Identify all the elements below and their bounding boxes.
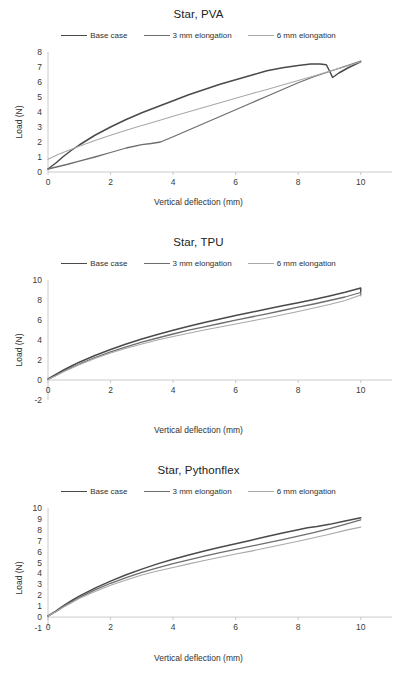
plot-area-star-pythonflex: Load (N) -10123456789100246810 <box>0 500 397 655</box>
legend-swatch-base-case <box>61 491 87 492</box>
legend-item-base-case: Base case <box>61 259 127 268</box>
series-line <box>48 293 361 380</box>
x-tick-label: 10 <box>356 385 366 395</box>
legend-label-3mm: 3 mm elongation <box>173 259 232 268</box>
y-tick-label: 5 <box>37 558 42 568</box>
chart-legend-star-pythonflex: Base case 3 mm elongation 6 mm elongatio… <box>0 482 397 500</box>
chart-legend-star-tpu: Base case 3 mm elongation 6 mm elongatio… <box>0 254 397 272</box>
x-tick-label: 8 <box>296 622 301 632</box>
legend-label-base-case: Base case <box>90 259 127 268</box>
plot-area-star-pva: Load (N) 0123456780246810 <box>0 44 397 199</box>
chart-title-star-tpu: Star, TPU <box>0 228 397 250</box>
y-tick-label: 1 <box>37 152 42 162</box>
plot-svg-star-pva: 0123456780246810 <box>0 44 397 199</box>
legend-swatch-6mm <box>248 263 274 264</box>
x-tick-label: 10 <box>356 177 366 187</box>
y-tick-label: 8 <box>37 295 42 305</box>
chart-panel-star-pva: Star, PVA Base case 3 mm elongation 6 mm… <box>0 0 397 228</box>
y-tick-label: 7 <box>37 62 42 72</box>
y-tick-label: 2 <box>37 137 42 147</box>
legend-swatch-base-case <box>61 263 87 264</box>
y-tick-label: 0 <box>37 167 42 177</box>
legend-swatch-6mm <box>248 491 274 492</box>
y-tick-label: 6 <box>37 315 42 325</box>
y-axis-label-star-pythonflex: Load (N) <box>14 561 24 594</box>
x-tick-label: 0 <box>46 622 51 632</box>
chart-title-star-pythonflex: Star, Pythonflex <box>0 456 397 478</box>
legend-swatch-3mm <box>144 35 170 36</box>
x-tick-label: 8 <box>296 385 301 395</box>
y-tick-label: 0 <box>37 612 42 622</box>
y-axis-label-star-pva: Load (N) <box>14 105 24 138</box>
chart-panel-star-tpu: Star, TPU Base case 3 mm elongation 6 mm… <box>0 228 397 456</box>
y-tick-label: 10 <box>33 503 43 513</box>
chart-legend-star-pva: Base case 3 mm elongation 6 mm elongatio… <box>0 26 397 44</box>
series-line <box>48 527 361 616</box>
y-tick-label: 3 <box>37 579 42 589</box>
x-tick-label: 2 <box>108 385 113 395</box>
y-tick-label: 0 <box>37 375 42 385</box>
x-tick-label: 0 <box>46 385 51 395</box>
legend-label-base-case: Base case <box>90 487 127 496</box>
y-tick-label: -2 <box>34 395 42 405</box>
x-tick-label: 4 <box>171 385 176 395</box>
legend-label-6mm: 6 mm elongation <box>277 487 336 496</box>
y-tick-label: 4 <box>37 107 42 117</box>
legend-label-base-case: Base case <box>90 31 127 40</box>
x-tick-label: 4 <box>171 622 176 632</box>
legend-label-6mm: 6 mm elongation <box>277 31 336 40</box>
y-tick-label: 4 <box>37 335 42 345</box>
y-tick-label: 3 <box>37 122 42 132</box>
plot-area-star-tpu: Load (N) -202468100246810 <box>0 272 397 427</box>
y-tick-label: -1 <box>34 623 42 633</box>
plot-svg-star-tpu: -202468100246810 <box>0 272 397 427</box>
x-tick-label: 6 <box>233 385 238 395</box>
y-tick-label: 6 <box>37 547 42 557</box>
y-axis-label-star-tpu: Load (N) <box>14 333 24 366</box>
legend-item-3mm: 3 mm elongation <box>144 31 232 40</box>
plot-svg-star-pythonflex: -10123456789100246810 <box>0 500 397 655</box>
x-tick-label: 0 <box>46 177 51 187</box>
y-tick-label: 2 <box>37 355 42 365</box>
legend-item-3mm: 3 mm elongation <box>144 487 232 496</box>
legend-label-3mm: 3 mm elongation <box>173 31 232 40</box>
series-line <box>48 61 361 169</box>
series-line <box>48 62 361 160</box>
legend-item-base-case: Base case <box>61 487 127 496</box>
legend-item-3mm: 3 mm elongation <box>144 259 232 268</box>
x-tick-label: 2 <box>108 622 113 632</box>
x-tick-label: 6 <box>233 177 238 187</box>
y-tick-label: 2 <box>37 590 42 600</box>
series-line <box>48 295 361 380</box>
chart-title-star-pva: Star, PVA <box>0 0 397 22</box>
y-tick-label: 10 <box>33 275 43 285</box>
y-tick-label: 1 <box>37 601 42 611</box>
legend-label-6mm: 6 mm elongation <box>277 259 336 268</box>
legend-swatch-3mm <box>144 263 170 264</box>
x-tick-label: 4 <box>171 177 176 187</box>
y-tick-label: 6 <box>37 77 42 87</box>
series-line <box>48 288 361 379</box>
legend-swatch-3mm <box>144 491 170 492</box>
y-tick-label: 8 <box>37 525 42 535</box>
legend-item-6mm: 6 mm elongation <box>248 31 336 40</box>
legend-swatch-6mm <box>248 35 274 36</box>
legend-item-6mm: 6 mm elongation <box>248 487 336 496</box>
y-tick-label: 4 <box>37 568 42 578</box>
x-tick-label: 2 <box>108 177 113 187</box>
series-line <box>48 520 361 616</box>
legend-swatch-base-case <box>61 35 87 36</box>
x-tick-label: 8 <box>296 177 301 187</box>
series-line <box>48 62 361 169</box>
legend-label-3mm: 3 mm elongation <box>173 487 232 496</box>
y-tick-label: 9 <box>37 514 42 524</box>
legend-item-base-case: Base case <box>61 31 127 40</box>
x-tick-label: 6 <box>233 622 238 632</box>
y-tick-label: 7 <box>37 536 42 546</box>
y-tick-label: 5 <box>37 92 42 102</box>
chart-panel-star-pythonflex: Star, Pythonflex Base case 3 mm elongati… <box>0 456 397 684</box>
x-tick-label: 10 <box>356 622 366 632</box>
legend-item-6mm: 6 mm elongation <box>248 259 336 268</box>
y-tick-label: 8 <box>37 47 42 57</box>
